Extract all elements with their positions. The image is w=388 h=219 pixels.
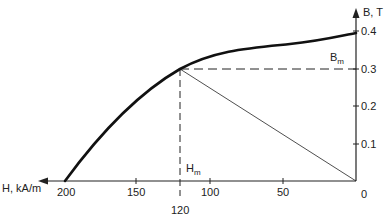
origin-label: 0 <box>361 189 367 200</box>
hm-label: Hm <box>186 163 201 177</box>
hm-label-sub: m <box>194 168 201 177</box>
b-tick-0.2: 0.2 <box>361 101 376 112</box>
h-tick-50: 50 <box>277 187 289 198</box>
bm-label-sub: m <box>337 57 344 66</box>
hm-value-label: 120 <box>171 205 189 216</box>
b-axis-arrow-icon <box>353 8 360 18</box>
b-axis-title: B, T <box>363 7 383 18</box>
b-tick-0.1: 0.1 <box>361 139 376 150</box>
h-tick-150: 150 <box>127 187 145 198</box>
load-line <box>180 69 356 181</box>
b-tick-0.3: 0.3 <box>361 64 376 75</box>
demagnetization-curve <box>65 33 356 181</box>
bm-label: Bm <box>330 52 344 66</box>
h-tick-200: 200 <box>57 187 75 198</box>
h-axis-title: H, kA/m <box>2 183 41 194</box>
h-tick-100: 100 <box>201 187 219 198</box>
b-tick-0.4: 0.4 <box>361 26 376 37</box>
hm-label-main: H <box>186 162 194 174</box>
